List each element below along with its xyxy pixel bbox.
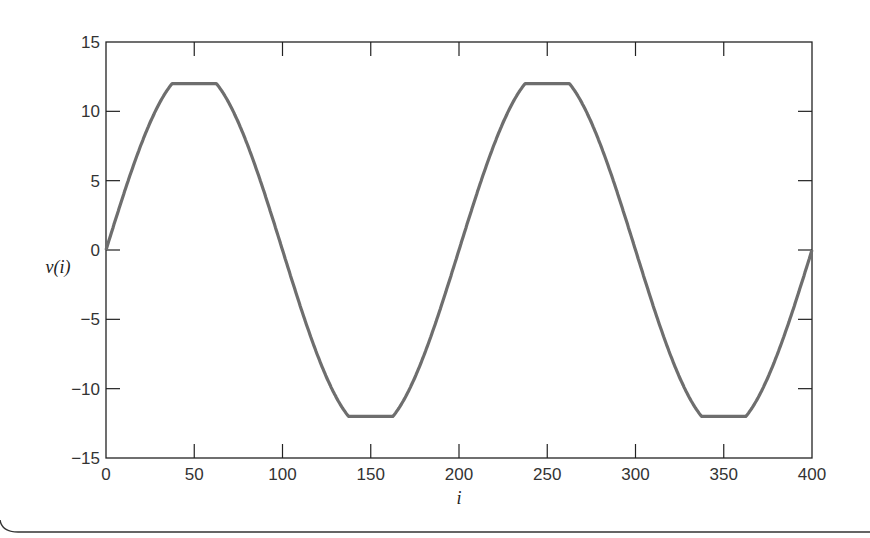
x-tick-label: 300: [621, 465, 649, 484]
x-tick-label: 50: [185, 465, 204, 484]
y-tick-label: −5: [81, 310, 100, 329]
y-tick-label: −10: [71, 380, 100, 399]
x-tick-label: 250: [533, 465, 561, 484]
x-tick-label: 100: [268, 465, 296, 484]
figure-frame-border: [0, 520, 870, 532]
y-tick-label: 10: [81, 102, 100, 121]
v-of-i-line: [106, 84, 812, 417]
y-tick-label: 15: [81, 33, 100, 52]
x-tick-label: 0: [101, 465, 110, 484]
x-tick-label: 150: [357, 465, 385, 484]
y-tick-label: −15: [71, 449, 100, 468]
y-axis-label: v(i): [46, 257, 71, 278]
y-tick-label: 5: [91, 172, 100, 191]
x-tick-label: 200: [445, 465, 473, 484]
data-series: [106, 84, 812, 417]
clipped-sine-chart: 050100150200250300350400151050−5−10−15 i…: [0, 0, 870, 538]
frame-bottom-border: [0, 520, 870, 532]
x-axis-label: i: [456, 488, 461, 508]
x-tick-label: 350: [710, 465, 738, 484]
y-tick-label: 0: [91, 241, 100, 260]
x-tick-label: 400: [798, 465, 826, 484]
